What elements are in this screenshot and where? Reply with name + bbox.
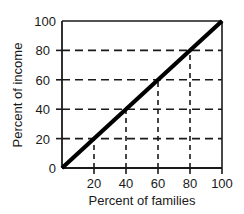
lorenz-curve-chart: 100 80 60 40 20 0 20 40 60 80 100 Percen… xyxy=(0,0,244,214)
y-tick-label-60: 60 xyxy=(36,73,50,88)
y-tick-label-100: 100 xyxy=(34,14,56,29)
x-tick-label-100: 100 xyxy=(211,176,233,191)
x-tick-label-80: 80 xyxy=(183,176,197,191)
x-tick-label-60: 60 xyxy=(151,176,165,191)
y-axis-title: Percent of income xyxy=(10,43,25,148)
y-tick-label-20: 20 xyxy=(36,132,50,147)
y-tick-label-40: 40 xyxy=(36,102,50,117)
x-tick-label-20: 20 xyxy=(87,176,101,191)
x-tick-label-40: 40 xyxy=(119,176,133,191)
x-axis-title: Percent of families xyxy=(89,193,196,208)
y-tick-label-0: 0 xyxy=(49,161,56,176)
y-tick-label-80: 80 xyxy=(36,43,50,58)
chart-canvas: 100 80 60 40 20 0 20 40 60 80 100 Percen… xyxy=(0,0,244,214)
